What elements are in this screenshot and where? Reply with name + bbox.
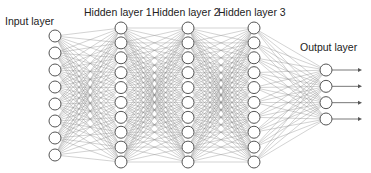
neuron-node [320,97,332,109]
neuron-node [115,156,127,168]
neuron-node [115,22,127,34]
neuron-node [182,82,194,94]
neuron-node [248,67,260,79]
neuron-node [182,111,194,123]
neuron-node [320,113,332,125]
neuron-node [248,52,260,64]
neuron-node [115,126,127,138]
neuron-node [248,82,260,94]
neuron-node [49,81,61,93]
neuron-node [248,111,260,123]
neuron-node [115,52,127,64]
neuron-node [49,47,61,59]
neuron-node [49,132,61,144]
neuron-node [49,115,61,127]
neuron-node [182,96,194,108]
neuron-node [248,37,260,49]
hidden-layer-2-label: Hidden layer 2 [152,7,220,18]
neuron-node [115,82,127,94]
neuron-node [248,126,260,138]
input-layer-label: Input layer [5,16,54,27]
hidden-layer-1-label: Hidden layer 1 [84,7,152,18]
neuron-node [182,141,194,153]
neuron-node [182,22,194,34]
neuron-node [115,141,127,153]
neuron-node [182,37,194,49]
neural-network-diagram [0,0,371,173]
neuron-node [320,64,332,76]
neuron-node [248,22,260,34]
neuron-node [49,64,61,76]
neuron-node [182,126,194,138]
neuron-node [182,156,194,168]
neuron-node [49,30,61,42]
neuron-node [115,111,127,123]
neuron-node [49,98,61,110]
neuron-node [49,149,61,161]
neuron-node [320,80,332,92]
neuron-node [182,52,194,64]
neuron-node [115,67,127,79]
neuron-node [182,67,194,79]
neuron-node [115,37,127,49]
neuron-node [248,141,260,153]
output-layer-label: Output layer [300,42,357,53]
output-arrows [332,68,362,121]
neuron-node [248,156,260,168]
neuron-node [248,96,260,108]
hidden-layer-3-label: Hidden layer 3 [218,7,286,18]
neuron-node [115,96,127,108]
